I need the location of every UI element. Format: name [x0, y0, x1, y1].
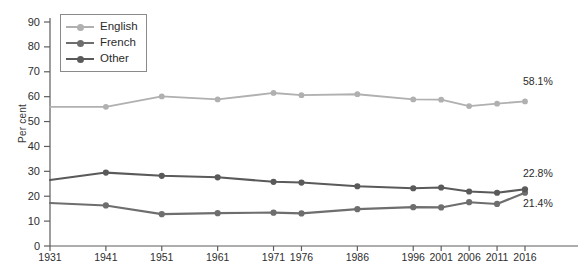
data-point-french-1976	[298, 210, 304, 216]
data-point-other-1976	[298, 179, 304, 185]
data-point-english-2001	[438, 97, 444, 103]
legend-marker-french	[66, 38, 94, 48]
data-point-french-2006	[466, 199, 472, 205]
end-label-other: 22.8%	[523, 168, 553, 179]
data-point-french-1951	[159, 211, 165, 217]
data-point-english-2011	[494, 101, 500, 107]
data-point-english-1976	[299, 92, 305, 98]
legend-marker-other	[66, 54, 94, 64]
data-point-english-2016	[522, 99, 528, 105]
data-point-other-1986	[354, 183, 360, 189]
data-point-english-1986	[354, 91, 360, 97]
series-other	[50, 169, 528, 195]
data-point-other-2006	[466, 188, 472, 194]
data-point-french-1941	[103, 202, 109, 208]
series-english	[50, 90, 528, 110]
data-point-french-2001	[438, 204, 444, 210]
legend-marker-english	[66, 22, 94, 32]
data-point-other-1941	[103, 169, 109, 175]
data-point-french-1996	[410, 204, 416, 210]
data-point-other-1971	[270, 179, 276, 185]
data-point-french-1961	[215, 210, 221, 216]
data-point-english-2006	[466, 103, 472, 109]
series-french	[50, 190, 528, 218]
data-point-english-1941	[103, 104, 109, 110]
legend-item-french[interactable]: French	[66, 35, 138, 51]
data-point-english-1951	[159, 94, 165, 100]
legend-label-english: English	[100, 21, 138, 33]
data-point-other-2011	[494, 190, 500, 196]
legend-item-other[interactable]: Other	[66, 51, 138, 67]
line-chart: Per cent 0102030405060708090 19311941195…	[0, 0, 584, 278]
data-point-french-2011	[494, 201, 500, 207]
data-point-other-1951	[159, 173, 165, 179]
chart-legend: English French Other	[60, 14, 147, 72]
data-point-french-1986	[354, 206, 360, 212]
legend-label-french: French	[100, 37, 136, 49]
data-point-other-1996	[410, 185, 416, 191]
data-point-other-2016	[522, 186, 528, 192]
data-point-english-1971	[271, 90, 277, 96]
legend-item-english[interactable]: English	[66, 19, 138, 35]
data-point-english-1996	[410, 97, 416, 103]
end-label-english: 58.1%	[523, 76, 553, 87]
data-point-other-2001	[438, 184, 444, 190]
data-point-french-1971	[270, 210, 276, 216]
data-point-other-1961	[215, 174, 221, 180]
legend-label-other: Other	[100, 53, 129, 65]
end-label-french: 21.4%	[523, 198, 553, 209]
data-point-english-1961	[215, 97, 221, 103]
